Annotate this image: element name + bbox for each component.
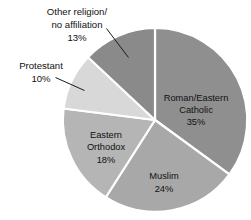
pie-chart-svg: Roman/Eastern Catholic 35% Muslim 24% Ea…: [0, 0, 251, 220]
label-orthodox-line1: Eastern: [90, 130, 122, 140]
label-protestant-value: 10%: [31, 73, 51, 84]
label-other-line1: Other religion/: [47, 6, 108, 17]
label-orthodox-line2: Orthodox: [87, 142, 126, 152]
label-muslim-value: 24%: [155, 184, 174, 194]
label-protestant-line1: Protestant: [19, 60, 63, 71]
label-orthodox-value: 18%: [97, 155, 116, 165]
label-catholic-line1: Roman/Eastern: [164, 93, 229, 103]
label-other-value: 13%: [67, 32, 87, 43]
label-protestant: Protestant 10%: [19, 60, 63, 84]
label-other-line2: no affiliation: [51, 19, 102, 30]
label-other-religion: Other religion/ no affiliation 13%: [47, 6, 108, 43]
label-catholic-value: 35%: [187, 117, 206, 127]
pie-chart-figure: Roman/Eastern Catholic 35% Muslim 24% Ea…: [0, 0, 251, 220]
label-catholic-line2: Catholic: [179, 105, 213, 115]
label-muslim-line1: Muslim: [149, 171, 179, 181]
